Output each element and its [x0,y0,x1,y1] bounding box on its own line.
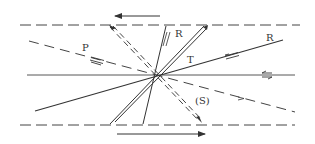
shear-diagram: P R R T (S) [0,0,315,144]
r-shear-line [35,40,283,111]
s-foliation-line-2 [113,26,202,120]
s-foliation-line-1 [110,27,199,121]
label-s: (S) [195,95,210,106]
p-shear-arrowhead [238,97,244,100]
label-t: T [187,54,194,65]
label-r-right: R [266,32,274,43]
s-foliation-arrowhead-bottom [196,116,202,123]
label-p: P [82,42,89,53]
label-r-upper: R [175,28,183,39]
